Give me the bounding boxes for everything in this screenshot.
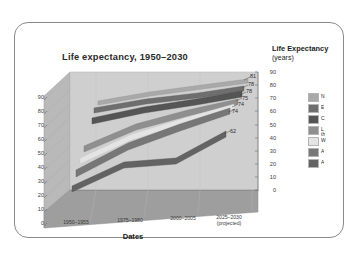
tick-right-20: 20 [270,161,276,167]
tick-right-90: 90 [270,69,276,75]
legend-label-5: A [321,148,324,154]
tick-right-10: 10 [270,174,276,180]
tick-left-30: 30 [38,178,44,184]
x-tick-label-1: 1975–1980 [102,217,158,223]
tick-left-10: 10 [38,206,44,212]
x-axis-title: Dates [0,232,266,241]
tick-right-60: 60 [270,108,276,114]
legend-item-3[interactable]: Lth [308,126,342,136]
tick-left-60: 60 [38,136,44,142]
legend-label-4: W [321,137,326,143]
tick-right-70: 70 [270,95,276,101]
legend-item-2[interactable]: C [308,115,342,125]
x-tick-label-3: 2025–2030 (projected) [201,214,257,226]
tick-left-70: 70 [38,122,44,128]
tick-right-30: 30 [270,148,276,154]
tick-left-50: 50 [38,150,44,156]
y-axis-caption: Life Expectancy (years) [272,44,328,62]
legend-swatch-3 [308,126,319,135]
legend-label-1: E [321,104,324,110]
tick-left-0: 0 [41,220,44,226]
legend-swatch-4 [308,137,319,146]
legend-label-3: Lth [321,126,325,136]
legend-item-6[interactable]: A [308,159,342,169]
legend-item-0[interactable]: N [308,93,342,103]
tick-left-90: 90 [38,94,44,100]
plot-floor-top [70,190,258,191]
end-label-series-5: 74 [232,108,238,114]
chart-legend: N E C Lth W A A [308,93,342,170]
legend-swatch-2 [308,115,319,124]
legend-item-1[interactable]: E [308,104,342,114]
end-label-series-2: 78 [246,88,252,94]
y-axis-title: Life Expectancy [272,44,328,53]
tick-right-40: 40 [270,135,276,141]
legend-item-4[interactable]: W [308,137,342,147]
tick-left-40: 40 [38,164,44,170]
tick-left-80: 80 [38,108,44,114]
end-label-series-0: 81 [250,73,256,79]
legend-label-0: N [321,93,325,99]
legend-label-6: A [321,159,324,165]
tick-right-80: 80 [270,82,276,88]
tick-left-20: 20 [38,192,44,198]
y-axis-right-ticks: 90 80 70 60 50 40 30 20 10 0 [262,0,276,220]
x-tick-label-0: 1950–1955 [48,219,104,225]
y-axis-left-ticks: 90 80 70 60 50 40 30 20 10 0 [28,0,44,220]
legend-swatch-5 [308,148,319,157]
end-label-series-6: 62 [230,128,236,134]
x-tick-label-3-note: (projected) [217,220,241,226]
legend-swatch-6 [308,159,319,168]
legend-label-2: C [321,115,325,121]
legend-swatch-1 [308,104,319,113]
tick-right-50: 50 [270,122,276,128]
legend-swatch-0 [308,93,319,102]
end-label-series-4: 74 [238,101,244,107]
legend-item-5[interactable]: A [308,148,342,158]
tick-right-0: 0 [273,187,276,193]
end-label-series-1: 78 [248,81,254,87]
